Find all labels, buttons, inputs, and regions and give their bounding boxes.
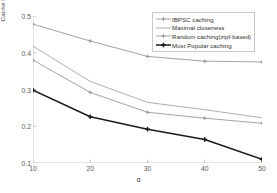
legend-item[interactable]: Random caching(zipf-based) [155, 32, 251, 41]
x-axis-label: α [0, 176, 277, 183]
legend-item[interactable]: Maximal closeness [155, 24, 251, 33]
legend-label: Maximal closeness [172, 24, 224, 31]
x-tick-label: 40 [201, 165, 209, 172]
y-tick-label: 0.3 [22, 86, 31, 93]
legend-swatch-plus-icon [155, 32, 172, 40]
legend-swatch-plus-icon [155, 15, 172, 23]
legend-item[interactable]: Most Popular caching [155, 41, 251, 50]
y-tick-label: 0.4 [22, 49, 31, 56]
legend-item[interactable]: IBPSC caching [155, 15, 251, 24]
x-tick-label: 20 [86, 165, 94, 172]
x-tick-label: 30 [144, 165, 152, 172]
x-tick-label: 50 [258, 165, 266, 172]
x-axis-tick-labels: 10 20 30 40 50 [33, 165, 262, 175]
y-tick-label: 0.2 [22, 123, 31, 130]
legend-label: Random caching(zipf-based) [172, 33, 251, 40]
chart-figure: Cache hit ratio 0.1 0.2 0.3 0.4 0.5 10 2… [0, 0, 277, 193]
legend-swatch-plus-icon [155, 41, 172, 49]
x-tick-label: 10 [29, 165, 37, 172]
chart-legend: IBPSC caching Maximal closeness Random c… [152, 12, 255, 52]
legend-label: IBPSC caching [172, 16, 214, 23]
y-axis-tick-labels: 0.1 0.2 0.3 0.4 0.5 [0, 16, 31, 163]
legend-swatch-line-icon [155, 24, 172, 32]
y-tick-label: 0.5 [22, 13, 31, 20]
legend-label: Most Popular caching [172, 42, 232, 49]
